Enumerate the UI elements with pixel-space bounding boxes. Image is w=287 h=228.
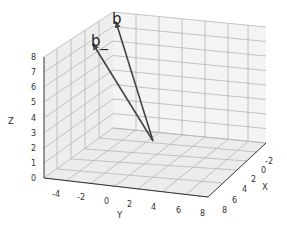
x-axis-label: X xyxy=(262,182,268,192)
svg-text:4: 4 xyxy=(151,203,156,212)
svg-text:8: 8 xyxy=(200,209,205,218)
svg-text:4: 4 xyxy=(242,185,247,194)
svg-text:2: 2 xyxy=(31,144,36,153)
svg-text:8: 8 xyxy=(222,206,227,215)
plot-canvas: 0 1 2 3 4 5 6 7 8 Z -4 -2 0 2 4 6 8 Y -2… xyxy=(0,0,287,228)
svg-text:2: 2 xyxy=(251,175,256,184)
svg-text:4: 4 xyxy=(31,114,36,123)
z-axis-label: Z xyxy=(8,116,14,126)
svg-text:1: 1 xyxy=(31,159,36,168)
svg-text:6: 6 xyxy=(31,83,36,92)
vector-label-b: b xyxy=(112,10,122,28)
svg-text:-2: -2 xyxy=(77,193,85,202)
svg-text:2: 2 xyxy=(127,200,132,209)
svg-text:0: 0 xyxy=(31,174,36,183)
svg-text:0: 0 xyxy=(104,197,109,206)
svg-text:-4: -4 xyxy=(52,190,60,199)
svg-text:7: 7 xyxy=(31,68,36,77)
svg-text:3: 3 xyxy=(31,129,36,138)
svg-text:8: 8 xyxy=(31,53,36,62)
z-ticks: 0 1 2 3 4 5 6 7 8 xyxy=(31,53,36,183)
svg-text:6: 6 xyxy=(232,196,237,205)
vector-label-b-underscore: b_ xyxy=(91,32,109,51)
3d-vector-plot: 0 1 2 3 4 5 6 7 8 Z -4 -2 0 2 4 6 8 Y -2… xyxy=(0,0,287,228)
svg-text:5: 5 xyxy=(31,98,36,107)
y-axis-label: Y xyxy=(116,210,123,220)
svg-text:0: 0 xyxy=(261,166,266,175)
svg-text:6: 6 xyxy=(176,206,181,215)
svg-text:-2: -2 xyxy=(265,157,273,166)
